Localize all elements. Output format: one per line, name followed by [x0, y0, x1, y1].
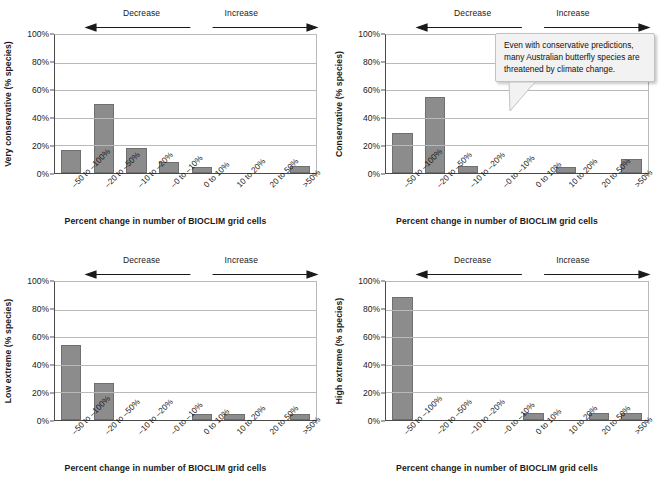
- chart-panel-conservative: Decrease Increase Conservative (% specie…: [331, 0, 663, 247]
- decrease-label: Decrease: [454, 8, 491, 18]
- bar-slot: [283, 282, 316, 420]
- x-axis-title: Percent change in number of BIOCLIM grid…: [331, 216, 663, 226]
- y-axis-tick-label: 20%: [32, 141, 49, 151]
- decrease-label: Decrease: [123, 255, 160, 265]
- y-axis-tick-label: 40%: [32, 113, 49, 123]
- bar-slot: [615, 282, 648, 420]
- y-axis-label-text: High extreme (% species): [334, 298, 344, 405]
- y-axis-tick-label: 100%: [27, 29, 49, 39]
- direction-header: Decrease Increase: [417, 255, 649, 281]
- bar-slot: [55, 282, 88, 420]
- bar-slot: [218, 282, 251, 420]
- increase-label: Increase: [225, 8, 258, 18]
- x-axis-title: Percent change in number of BIOCLIM grid…: [0, 463, 331, 473]
- y-axis-tick-label: 40%: [363, 360, 380, 370]
- bar-slot: [218, 35, 251, 173]
- y-axis-label-text: Conservative (% species): [334, 51, 344, 157]
- annotation-callout: Even with conservative predictions, many…: [495, 33, 655, 82]
- chart-panel-very-conservative: Decrease Increase Very conservative (% s…: [0, 0, 331, 247]
- y-axis-tick-label: 100%: [358, 276, 380, 286]
- y-axis-tick-label: 80%: [32, 304, 49, 314]
- x-axis-tick: 20 to 50%: [268, 423, 305, 441]
- bar-slot: [550, 282, 583, 420]
- y-axis-tick-label: 60%: [32, 85, 49, 95]
- x-axis-title: Percent change in number of BIOCLIM grid…: [331, 463, 663, 473]
- bar: [392, 133, 412, 173]
- x-axis-tick: 0 to 10%: [202, 423, 234, 441]
- gridline: [386, 118, 648, 119]
- x-axis-tick: 20 to 50%: [600, 176, 637, 194]
- direction-header: Decrease Increase: [417, 8, 649, 34]
- y-axis-label-text: Low extreme (% species): [3, 299, 13, 404]
- gridline: [55, 392, 316, 393]
- gridline: [55, 145, 316, 146]
- gridline: [55, 63, 316, 64]
- y-axis-tick-label: 0%: [37, 169, 49, 179]
- direction-header: Decrease Increase: [86, 255, 317, 281]
- bar-slot: [251, 35, 284, 173]
- y-axis-tick-label: 80%: [32, 57, 49, 67]
- bar: [61, 150, 81, 173]
- gridline: [55, 365, 316, 366]
- annotation-callout-tail: [509, 82, 555, 112]
- gridline: [386, 310, 648, 311]
- gridline: [386, 337, 648, 338]
- y-axis-tick-label: 20%: [363, 141, 380, 151]
- plot-area: [54, 34, 317, 174]
- decrease-label: Decrease: [454, 255, 491, 265]
- bar-slot: [386, 35, 419, 173]
- y-axis-tick-label: 40%: [32, 360, 49, 370]
- annotation-callout-text: Even with conservative predictions, many…: [495, 33, 655, 82]
- bar-slot: [186, 282, 219, 420]
- y-axis-tick-label: 100%: [27, 276, 49, 286]
- bar-slot: [186, 35, 219, 173]
- y-axis-ticks: 0%20%40%60%80%100%: [345, 281, 385, 421]
- x-axis-tick: 10 to 20%: [235, 176, 272, 194]
- x-axis-title: Percent change in number of BIOCLIM grid…: [0, 216, 331, 226]
- gridline: [55, 337, 316, 338]
- y-axis-tick-label: 80%: [363, 57, 380, 67]
- y-axis-ticks: 0%20%40%60%80%100%: [345, 34, 385, 174]
- bar-series: [55, 282, 316, 420]
- x-axis-tick: 10 to 20%: [235, 423, 272, 441]
- x-axis-tick: 20 to 50%: [268, 176, 305, 194]
- x-axis-tick: 10 to 20%: [567, 423, 604, 441]
- y-axis-label: Conservative (% species): [332, 34, 346, 174]
- direction-header: Decrease Increase: [86, 8, 317, 34]
- y-axis-tick-label: 60%: [363, 85, 380, 95]
- bar-series: [55, 35, 316, 173]
- plot-area: [385, 281, 649, 421]
- gridline: [55, 310, 316, 311]
- bar-slot: [55, 35, 88, 173]
- gridline: [386, 365, 648, 366]
- y-axis-label-text: Very conservative (% species): [3, 41, 13, 167]
- x-axis-tick: >50%: [301, 176, 322, 194]
- direction-arrows: [86, 270, 317, 279]
- y-axis-tick-label: 40%: [363, 113, 380, 123]
- bar-slot: [583, 282, 616, 420]
- x-axis-tick: 10 to 20%: [567, 176, 604, 194]
- y-axis-tick-label: 80%: [363, 304, 380, 314]
- bar-slot: [517, 282, 550, 420]
- bar-series: [386, 282, 648, 420]
- bar-slot: [386, 282, 419, 420]
- bar: [392, 297, 412, 420]
- y-axis-tick-label: 0%: [368, 416, 380, 426]
- increase-label: Increase: [556, 255, 589, 265]
- y-axis-tick-label: 60%: [363, 332, 380, 342]
- y-axis-tick-label: 100%: [358, 29, 380, 39]
- decrease-label: Decrease: [123, 8, 160, 18]
- gridline: [55, 90, 316, 91]
- increase-label: Increase: [556, 8, 589, 18]
- y-axis-tick-label: 0%: [368, 169, 380, 179]
- chart-panel-low-extreme: Decrease Increase Low extreme (% species…: [0, 247, 331, 494]
- y-axis-tick-label: 0%: [37, 416, 49, 426]
- bar: [61, 345, 81, 420]
- x-axis-tick: 0 to 10%: [202, 176, 234, 194]
- figure-panel-grid: Decrease Increase Very conservative (% s…: [0, 0, 663, 494]
- plot-area: [54, 281, 317, 421]
- x-axis-tick: >50%: [301, 423, 322, 441]
- direction-arrows: [417, 23, 649, 32]
- gridline: [55, 118, 316, 119]
- x-axis-tick: 20 to 50%: [600, 423, 637, 441]
